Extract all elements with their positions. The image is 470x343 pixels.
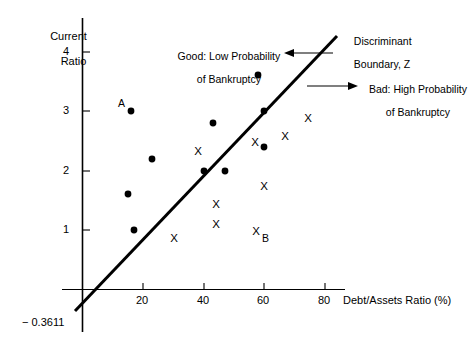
data-point-x: X	[212, 218, 220, 230]
bad-data-points: X X X X X X X X X	[170, 112, 312, 244]
y-tick-label-4: 4	[63, 45, 69, 57]
y-intercept-label: − 0.3611	[22, 316, 64, 328]
bad-region-annotation: Bad: High Probability of Bankruptcy	[360, 72, 470, 119]
good-region-annotation: Good: Low Probability of Bankruptcy	[166, 39, 286, 86]
y-tick-label-3: 3	[63, 104, 69, 116]
x-tick-label-60: 60	[257, 294, 269, 306]
point-b-label: B	[262, 233, 269, 245]
boundary-annotation: Discriminant Boundary, Z	[348, 24, 438, 71]
x-tick-label-20: 20	[136, 294, 148, 306]
data-point-x: X	[260, 180, 268, 192]
data-point	[149, 156, 156, 163]
data-point	[261, 144, 268, 151]
data-point	[210, 120, 217, 127]
annotation-arrows	[284, 49, 358, 90]
boundary-annotation-line2: Boundary, Z	[354, 58, 410, 70]
data-point-x: X	[194, 145, 202, 157]
x-axis-title: Debt/Assets Ratio (%)	[343, 294, 451, 306]
boundary-annotation-line1: Discriminant	[354, 35, 412, 47]
y-axis-ticks	[83, 52, 90, 230]
data-point-x: X	[304, 112, 312, 124]
data-point	[222, 168, 229, 175]
y-axis-title: Current Ratio	[44, 18, 87, 67]
good-annotation-line2: of Bankruptcy	[197, 73, 261, 85]
good-annotation-line1: Good: Low Probability	[178, 50, 281, 62]
y-axis-title-line1: Current	[50, 30, 87, 42]
data-point-x: X	[251, 136, 259, 148]
y-tick-label-2: 2	[63, 164, 69, 176]
bad-arrow-head	[348, 82, 358, 90]
data-point-x: X	[281, 130, 289, 142]
point-a-label: A	[118, 98, 125, 110]
bad-annotation-line2: of Bankruptcy	[386, 106, 450, 118]
data-point	[131, 227, 138, 234]
data-point	[201, 168, 208, 175]
data-point-x: X	[212, 198, 220, 210]
data-point-x: X	[170, 232, 178, 244]
data-point	[261, 108, 268, 115]
x-tick-label-80: 80	[318, 294, 330, 306]
data-point	[125, 191, 132, 198]
bad-annotation-line1: Bad: High Probability	[369, 83, 467, 95]
data-point-x-b: X	[252, 225, 260, 237]
y-tick-label-1: 1	[63, 223, 69, 235]
data-point-a	[128, 108, 135, 115]
x-tick-label-40: 40	[197, 294, 209, 306]
